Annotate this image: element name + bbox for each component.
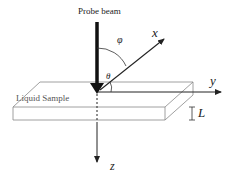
- probe-beam-label: Probe beam: [78, 6, 121, 16]
- theta-angle-arc: [110, 82, 112, 92]
- x-axis-label: x: [152, 25, 158, 41]
- theta-angle-label: θ: [106, 71, 110, 81]
- z-axis-label: z: [110, 159, 115, 174]
- liquid-sample-label: Liquid Sample: [16, 93, 69, 103]
- thickness-label: L: [198, 105, 205, 121]
- diagram-canvas: [0, 0, 232, 178]
- phi-angle-label: φ: [117, 34, 123, 45]
- thickness-bracket: [189, 107, 195, 120]
- y-axis-label: y: [210, 73, 216, 89]
- phi-angle-arc: [97, 48, 126, 66]
